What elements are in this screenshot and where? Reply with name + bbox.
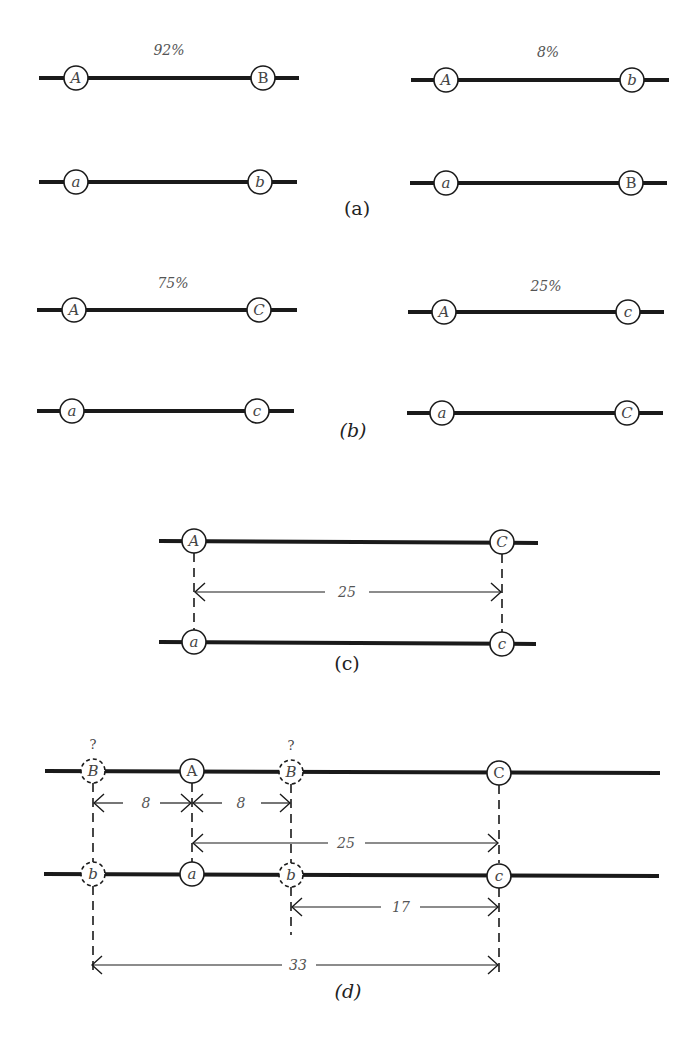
allele-label: a [72,173,81,191]
panel-b: 75% A C a c 25% A c a C (b) [37,275,664,441]
allele-label: C [493,764,504,782]
allele-label: a [442,174,451,192]
genetic-linkage-map-diagram: 92% A B a b 8% A b a B (a) [0,0,693,1038]
frequency-label: 75% [157,275,188,291]
allele-label: A [439,71,452,89]
panel-a: 92% A B a b 8% A b a B (a) [39,42,669,219]
allele-label: B [257,69,268,87]
panel-a-left-pair: 92% A B a b [39,42,299,194]
allele-label: C [621,404,633,422]
allele-label: a [68,402,77,420]
allele-label: a [438,404,447,422]
chromosome-line [159,642,536,644]
panel-c: A C a c 25 (c) [159,529,538,674]
allele-label: A [186,762,198,780]
allele-label: A [437,303,450,321]
unknown-position-marker: ? [288,738,295,753]
chromosome-line [44,874,659,876]
panel-label-b: (b) [340,419,367,441]
panel-label-a: (a) [344,197,370,219]
panel-d: ? ? B A B C b a b c 8 8 25 17 [44,737,660,1002]
distance-label: 25 [336,835,355,851]
distance-label: 8 [142,795,151,811]
allele-label: A [69,69,82,87]
allele-label: A [67,301,80,319]
allele-label: c [253,402,262,420]
distance-label: 17 [392,899,410,915]
allele-label: c [498,635,507,653]
allele-label: b [627,71,637,89]
panel-label-c: (c) [334,652,359,674]
allele-label: C [253,301,265,319]
chromosome-line [45,771,660,773]
allele-label: B [284,763,296,781]
frequency-label: 8% [537,44,559,60]
allele-label: b [286,866,296,884]
allele-label: B [625,174,636,192]
unknown-position-marker: ? [90,737,97,752]
allele-label: A [187,532,200,550]
frequency-label: 25% [529,278,561,294]
distance-label: 25 [337,584,356,600]
chromosome-line [159,541,538,543]
panel-a-right-pair: 8% A b a B [410,44,669,195]
frequency-label: 92% [153,42,184,58]
panel-b-right-pair: 25% A c a C [407,278,664,425]
distance-label: 8 [237,795,246,811]
allele-label: b [88,865,98,883]
allele-label: a [188,865,197,883]
allele-label: c [624,303,633,321]
distance-label: 33 [289,957,307,973]
allele-label: c [495,867,504,885]
panel-label-d: (d) [335,980,362,1002]
allele-label: C [496,533,508,551]
allele-label: a [190,633,199,651]
allele-label: b [255,173,265,191]
panel-b-left-pair: 75% A C a c [37,275,297,423]
allele-label: B [86,762,98,780]
